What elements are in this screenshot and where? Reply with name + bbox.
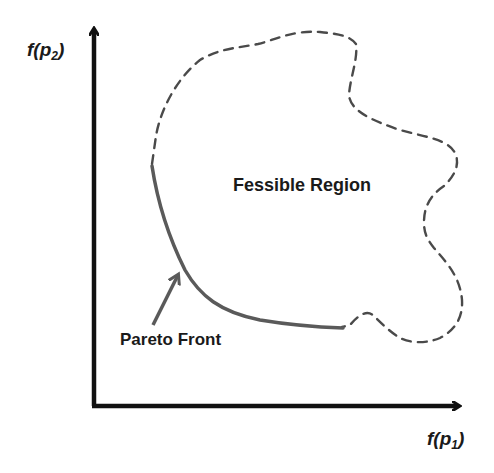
y-axis-label: f(p2) [27, 39, 64, 63]
pareto-front-label: Pareto Front [120, 330, 221, 350]
y-axis-label-main: f(p [27, 39, 51, 60]
x-axis-label-main: f(p [427, 428, 451, 449]
pareto-diagram: f(p2) f(p1) Fessible Region Pareto Front [0, 0, 494, 473]
x-axis-label: f(p1) [427, 428, 464, 452]
pareto-pointer-arrow [153, 275, 178, 325]
x-axis-label-close: ) [458, 428, 464, 449]
x-axis-label-subscript: 1 [451, 438, 458, 452]
y-axis-label-close: ) [58, 39, 64, 60]
y-axis-label-subscript: 2 [51, 49, 58, 63]
diagram-canvas [0, 0, 494, 473]
feasible-region-label: Fessible Region [233, 175, 371, 196]
